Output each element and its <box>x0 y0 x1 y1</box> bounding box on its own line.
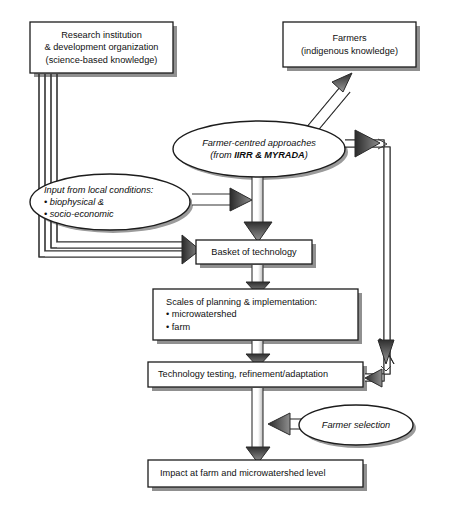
edge-approaches-to-basket <box>244 176 272 242</box>
node-selection-shape[interactable] <box>299 405 413 445</box>
edge-inputs-to-trunk <box>192 188 252 211</box>
node-approaches-shape[interactable] <box>173 121 345 177</box>
node-research-shape[interactable] <box>30 22 173 73</box>
node-basket-shape[interactable] <box>196 240 312 264</box>
diagram-canvas: Research institution & development organ… <box>0 0 449 512</box>
node-farmers-shape[interactable] <box>283 22 416 67</box>
node-testing-shape[interactable] <box>148 362 363 387</box>
edge-testing-to-impact <box>246 388 270 463</box>
node-inputs-shape[interactable] <box>30 174 190 230</box>
node-scales-shape[interactable] <box>153 289 358 340</box>
edge-approaches-to-testing-loop <box>345 130 394 387</box>
node-impact-shape[interactable] <box>148 460 363 487</box>
diagram-vector-layer <box>0 0 449 512</box>
